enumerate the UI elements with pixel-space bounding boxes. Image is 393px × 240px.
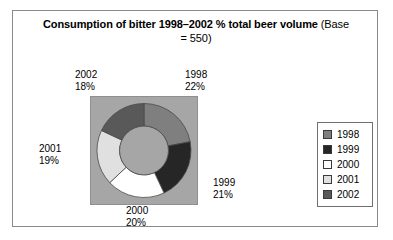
legend-item-2000[interactable]: 2000 [323, 157, 368, 172]
figure-frame: Consumption of bitter 1998–2002 % total … [12, 10, 378, 227]
doughnut-slices [97, 104, 191, 198]
slice-label-2002: 2002 18% [75, 69, 97, 93]
slice-label-2001: 2001 19% [39, 143, 61, 167]
slice-label-2002-year: 2002 [75, 69, 97, 81]
slice-label-2000-year: 2000 [126, 205, 148, 217]
legend-item-2001[interactable]: 2001 [323, 172, 368, 187]
slice-label-1998: 1998 22% [185, 69, 207, 93]
slice-label-1998-year: 1998 [185, 69, 207, 81]
legend-label-1998: 1998 [337, 129, 359, 140]
chart-legend: 19981999200020012002 [317, 122, 373, 207]
slice-label-2001-year: 2001 [39, 143, 61, 155]
chart-title-main: Consumption of bitter 1998–2002 % total … [43, 18, 318, 30]
legend-swatch-1998 [323, 130, 332, 139]
slice-label-2002-pct: 18% [75, 81, 97, 93]
slice-label-2000: 2000 20% [126, 205, 148, 229]
legend-swatch-1999 [323, 145, 332, 154]
slice-label-1999-pct: 21% [213, 189, 235, 201]
legend-label-2001: 2001 [337, 174, 359, 185]
slice-label-1999-year: 1999 [213, 177, 235, 189]
legend-swatch-2002 [323, 190, 332, 199]
doughnut-hole [120, 126, 169, 175]
slice-label-2001-pct: 19% [39, 155, 61, 167]
legend-label-2002: 2002 [337, 189, 359, 200]
legend-item-2002[interactable]: 2002 [323, 187, 368, 202]
slice-label-2000-pct: 20% [126, 217, 148, 229]
slice-label-1999: 1999 21% [213, 177, 235, 201]
legend-item-1998[interactable]: 1998 [323, 127, 368, 142]
legend-label-2000: 2000 [337, 159, 359, 170]
legend-swatch-2000 [323, 160, 332, 169]
legend-label-1999: 1999 [337, 144, 359, 155]
legend-item-1999[interactable]: 1999 [323, 142, 368, 157]
legend-swatch-2001 [323, 175, 332, 184]
chart-title: Consumption of bitter 1998–2002 % total … [39, 17, 353, 45]
doughnut-chart [85, 91, 203, 210]
slice-label-1998-pct: 22% [185, 81, 207, 93]
